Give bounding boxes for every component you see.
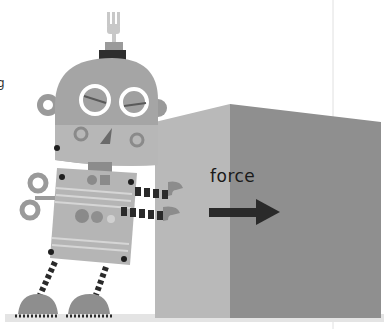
force-label: force	[210, 166, 255, 186]
fork-antenna-icon	[99, 12, 126, 61]
robot-legs	[15, 262, 112, 316]
wind-up-key-icon	[22, 175, 55, 218]
left-foot	[18, 294, 58, 314]
robot-pushing-box-illustration	[0, 0, 384, 329]
robot-body	[48, 168, 137, 265]
right-eye-goggle	[121, 89, 147, 115]
right-foot	[68, 294, 110, 314]
